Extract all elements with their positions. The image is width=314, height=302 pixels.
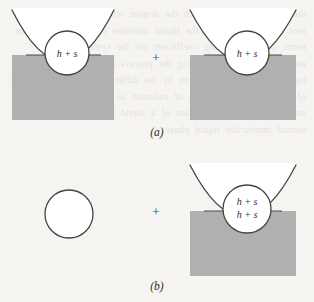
bubble-label-left-a: h + s bbox=[57, 48, 78, 59]
panel-a: h + s + h + s (a) bbox=[0, 8, 314, 139]
free-circle-b bbox=[45, 190, 93, 238]
bubble-label-right-b-line1: h + s bbox=[237, 196, 258, 207]
bubble-label-right-a: h + s bbox=[237, 48, 258, 59]
bubble-label-right-b-line2: h + s bbox=[237, 209, 258, 220]
plus-operator-a: + bbox=[152, 50, 159, 65]
panel-caption-b: (b) bbox=[150, 280, 164, 293]
plus-operator-b: + bbox=[152, 204, 159, 219]
figure-canvas: h + s + h + s (a) + bbox=[0, 0, 314, 302]
figure-root: the conditions under which the droplet w… bbox=[0, 0, 314, 302]
panel-b: + h + s h + s (b) bbox=[0, 163, 314, 293]
panel-caption-a: (a) bbox=[150, 126, 164, 139]
